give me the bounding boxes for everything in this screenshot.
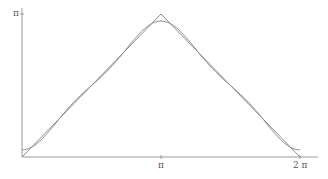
y-tick-label-pi: π — [13, 8, 19, 18]
fourier-approx-line — [22, 21, 300, 150]
x-tick-label-pi: π — [158, 160, 164, 170]
chart-canvas — [0, 0, 328, 179]
x-tick-label-2pi: 2 π — [293, 160, 308, 170]
triangle-wave-line — [22, 14, 300, 157]
